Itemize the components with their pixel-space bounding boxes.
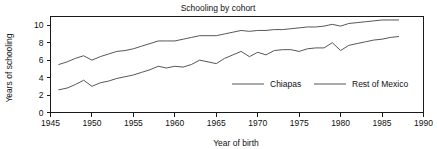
y-tick-label: 2	[39, 90, 44, 100]
x-axis-ticks: 1945195019551960196519701975198019851990	[41, 113, 433, 128]
y-tick-label: 10	[34, 20, 44, 30]
x-tick-label: 1945	[41, 118, 60, 128]
x-tick-label: 1975	[290, 118, 309, 128]
series-line-chiapas	[59, 37, 399, 90]
x-tick-label: 1965	[207, 118, 226, 128]
x-tick-label: 1955	[124, 118, 143, 128]
y-tick-label: 4	[39, 73, 44, 83]
x-tick-label: 1990	[414, 118, 433, 128]
x-tick-label: 1985	[373, 118, 392, 128]
chart-container: Schooling by cohort Years of schooling Y…	[0, 0, 437, 149]
x-tick-label: 1960	[165, 118, 184, 128]
y-tick-label: 8	[39, 38, 44, 48]
x-tick-label: 1970	[248, 118, 267, 128]
y-axis-ticks: 0246810	[34, 20, 50, 117]
series-line-rest-of-mexico	[59, 20, 399, 65]
y-tick-label: 0	[39, 108, 44, 118]
y-axis-title: Years of schooling	[4, 33, 14, 102]
legend-label-chiapas: Chiapas	[270, 79, 301, 89]
x-tick-label: 1980	[331, 118, 350, 128]
x-axis-title: Year of birth	[213, 138, 259, 148]
schooling-by-cohort-line-chart: Schooling by cohort Years of schooling Y…	[0, 0, 437, 149]
chart-legend: ChiapasRest of Mexico	[232, 79, 408, 89]
data-series-group	[59, 20, 399, 90]
y-tick-label: 6	[39, 55, 44, 65]
chart-title: Schooling by cohort	[181, 3, 256, 13]
x-tick-label: 1950	[82, 118, 101, 128]
legend-label-rest-of-mexico: Rest of Mexico	[352, 79, 408, 89]
